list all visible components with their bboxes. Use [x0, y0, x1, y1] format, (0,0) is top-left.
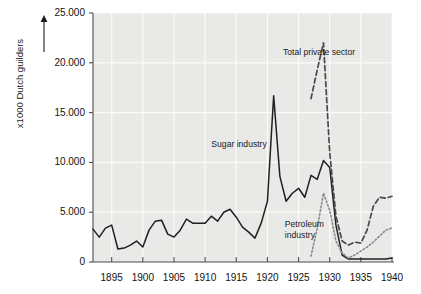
chart-figure: x1000 Dutch guilders 05.00010.00015.0002…	[0, 0, 421, 294]
y-axis-tick-label: 0	[29, 257, 85, 267]
series-annotation: Petroleum industry	[285, 219, 324, 240]
x-axis-tick-label: 1940	[372, 273, 412, 283]
series-annotation: Total private sector	[283, 47, 355, 58]
y-axis-title: x1000 Dutch guilders	[14, 19, 25, 149]
y-axis-tick-label: 10.000	[29, 157, 85, 167]
y-axis-tick-label: 25.000	[29, 8, 85, 18]
y-axis-arrow-icon	[38, 14, 50, 54]
y-axis-tick-label: 15.000	[29, 108, 85, 118]
series-annotation: Sugar industry	[211, 139, 266, 150]
y-axis-tick-label: 20.000	[29, 58, 85, 68]
y-axis-tick-label: 5.000	[29, 207, 85, 217]
